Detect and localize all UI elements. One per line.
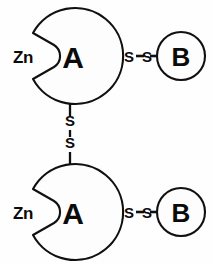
unit-top: A Zn S S B [13,8,205,116]
sulfur-label-bottom-right: S [142,204,152,221]
domain-b-label-top: B [172,42,191,72]
sulfur-label-bottom-left: S [124,204,134,221]
sulfur-label-top-left: S [124,48,134,65]
bridge-sulfur-upper: S [65,112,75,129]
diagram-canvas: A Zn S S B S S [0,0,212,265]
disulfide-bridge: S S [65,112,75,168]
zinc-label-top: Zn [13,48,33,67]
bridge-sulfur-lower: S [65,134,75,151]
domain-a-label-top: A [62,41,84,74]
sulfur-label-top-right: S [142,48,152,65]
unit-bottom: A Zn S S B [13,164,205,260]
schematic-figure: A Zn S S B S S [0,0,212,265]
domain-a-label-bottom: A [62,197,84,230]
zinc-label-bottom: Zn [13,204,33,223]
domain-b-label-bottom: B [172,198,191,228]
